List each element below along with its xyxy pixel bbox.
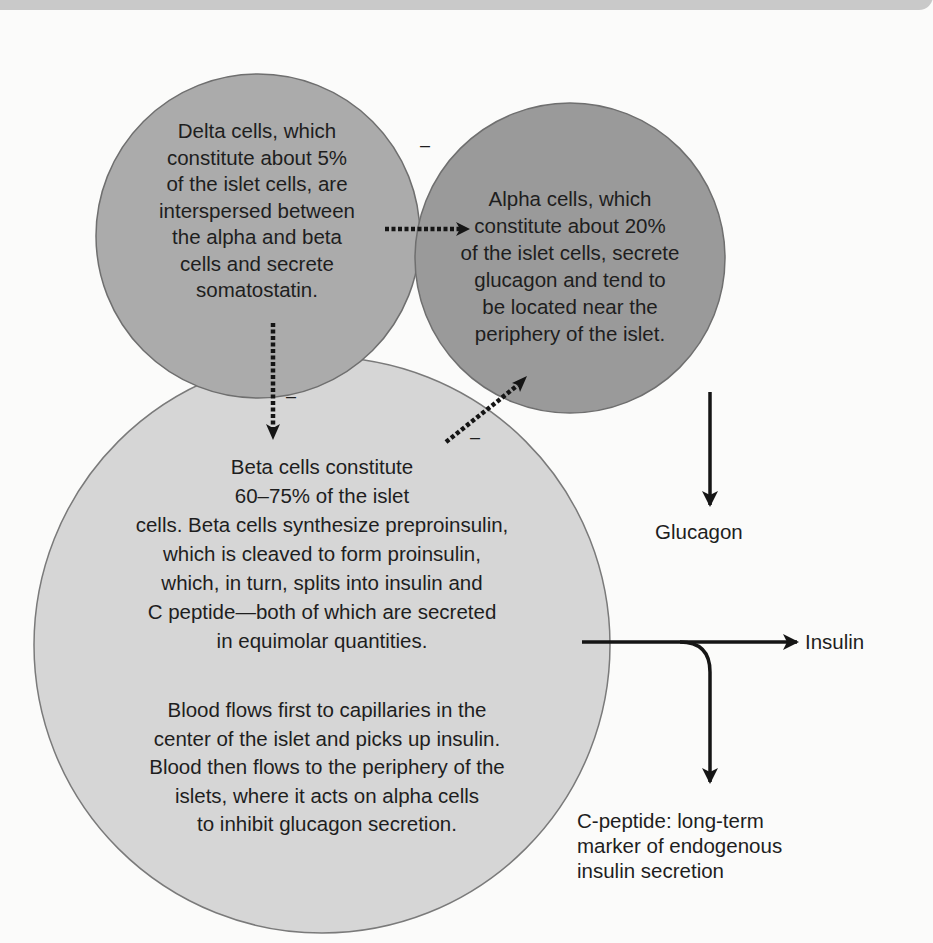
glucagon-label: Glucagon	[655, 520, 743, 544]
inhibition-sign-delta-alpha: –	[420, 133, 430, 157]
beta-line: which, in turn, splits into insulin and	[62, 568, 582, 597]
blood-flow-line: to inhibit glucagon secretion.	[92, 810, 562, 839]
beta-line: cells. Beta cells synthesize preproinsul…	[62, 510, 582, 539]
blood-flow-line: islets, where it acts on alpha cells	[92, 782, 562, 811]
beta-line: 60–75% of the islet	[62, 481, 582, 510]
alpha-line: of the islet cells, secrete	[445, 239, 695, 266]
alpha-line: glucagon and tend to	[445, 266, 695, 293]
c-peptide-line: C-peptide: long-term	[577, 808, 782, 833]
blood-flow-line: center of the islet and picks up insulin…	[92, 725, 562, 754]
alpha-line: constitute about 20%	[445, 212, 695, 239]
blood-flow-line: Blood then flows to the periphery of the	[92, 753, 562, 782]
alpha-line: periphery of the islet.	[445, 320, 695, 347]
delta-cell-description: Delta cells, which constitute about 5% o…	[107, 118, 407, 304]
delta-line: the alpha and beta	[107, 224, 407, 251]
delta-line: somatostatin.	[107, 277, 407, 304]
delta-line: of the islet cells, are	[107, 171, 407, 198]
blood-flow-line: Blood flows first to capillaries in the	[92, 696, 562, 725]
c-peptide-arrow	[680, 642, 710, 782]
beta-line: which is cleaved to form proinsulin,	[62, 539, 582, 568]
inhibition-sign-beta-alpha: –	[470, 425, 480, 449]
delta-line: interspersed between	[107, 198, 407, 225]
c-peptide-label: C-peptide: long-term marker of endogenou…	[577, 808, 782, 883]
alpha-line: Alpha cells, which	[445, 185, 695, 212]
c-peptide-line: marker of endogenous	[577, 833, 782, 858]
alpha-line: be located near the	[445, 293, 695, 320]
beta-line: C peptide—both of which are secreted	[62, 597, 582, 626]
beta-line: in equimolar quantities.	[62, 626, 582, 655]
blood-flow-description: Blood flows first to capillaries in the …	[92, 696, 562, 839]
delta-line: constitute about 5%	[107, 145, 407, 172]
c-peptide-line: insulin secretion	[577, 858, 782, 883]
beta-cell-description: Beta cells constitute 60–75% of the isle…	[62, 452, 582, 655]
alpha-cell-description: Alpha cells, which constitute about 20% …	[445, 185, 695, 347]
beta-line: Beta cells constitute	[62, 452, 582, 481]
delta-line: Delta cells, which	[107, 118, 407, 145]
inhibition-sign-delta-beta: –	[286, 384, 296, 408]
delta-line: cells and secrete	[107, 251, 407, 278]
insulin-label: Insulin	[805, 630, 864, 654]
